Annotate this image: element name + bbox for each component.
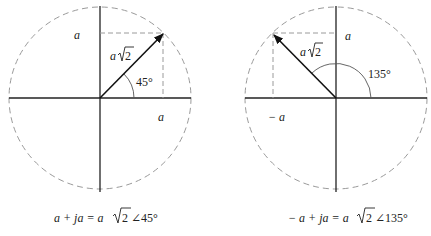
magnitude-a: a	[300, 45, 306, 59]
phasor-vector	[100, 34, 163, 98]
phasor-diagram-45: a a a 2 45° a + ja = a 2 ∠45°	[9, 6, 191, 225]
imag-component-label: a	[345, 29, 351, 43]
magnitude-sqrt: 2	[125, 49, 131, 63]
angle-label: 45°	[136, 75, 153, 89]
real-component-label: − a	[268, 110, 285, 124]
magnitude-sqrt: 2	[315, 45, 321, 59]
caption-rhs: ∠45°	[131, 211, 158, 225]
caption-rhs: ∠135°	[375, 211, 408, 225]
magnitude-a: a	[110, 49, 116, 63]
caption-lhs: a + ja = a	[54, 211, 104, 225]
angle-arc	[124, 74, 134, 98]
angle-arc	[312, 63, 371, 98]
imag-component-label: a	[74, 28, 80, 42]
phasor-diagram-figure: a a a 2 45° a + ja = a 2 ∠45° a − a a 2	[0, 0, 431, 236]
phasor-diagram-135: a − a a 2 135° − a + ja = a 2 ∠135°	[245, 6, 427, 225]
caption-sqrt: 2	[366, 211, 372, 225]
caption: a + ja = a 2 ∠45°	[54, 208, 158, 225]
caption-lhs: − a + ja = a	[288, 211, 349, 225]
magnitude-label: a 2	[110, 47, 134, 63]
caption-sqrt: 2	[122, 211, 128, 225]
real-component-label: a	[158, 110, 164, 124]
angle-label: 135°	[368, 67, 391, 81]
magnitude-label: a 2	[300, 43, 323, 59]
caption: − a + ja = a 2 ∠135°	[288, 208, 408, 225]
